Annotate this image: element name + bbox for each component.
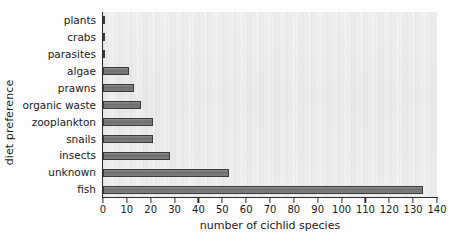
bar-row: [103, 147, 437, 164]
y-tick-label-algae: algae: [26, 63, 100, 80]
x-tick-label-110: 110: [356, 203, 375, 217]
bar-snails: [103, 135, 153, 143]
x-tick-label-0: 0: [100, 203, 106, 217]
y-tick-label-snails: snails: [26, 130, 100, 147]
y-axis-title: diet preference: [0, 0, 18, 245]
x-tick-label-10: 10: [120, 203, 133, 217]
y-tick-label-plants: plants: [26, 12, 100, 29]
bar-row: [103, 97, 437, 114]
x-tick-label-50: 50: [216, 203, 229, 217]
x-tick-label-140: 140: [427, 203, 446, 217]
x-tick-label-70: 70: [264, 203, 277, 217]
x-tick-label-130: 130: [404, 203, 423, 217]
y-tick-label-unknown: unknown: [26, 164, 100, 181]
x-tick-label-100: 100: [332, 203, 351, 217]
bar-fish: [103, 186, 423, 194]
bar-row: [103, 181, 437, 198]
bar-row: [103, 63, 437, 80]
bar-prawns: [103, 84, 134, 92]
y-tick-label-parasites: parasites: [26, 46, 100, 63]
plot-area: [103, 12, 437, 198]
bar-insects: [103, 152, 170, 160]
bar-row: [103, 164, 437, 181]
bar-row: [103, 113, 437, 130]
y-axis-line: [102, 12, 103, 198]
y-axis-tick-labels: plants crabs parasites algae prawns orga…: [26, 12, 100, 198]
y-tick-label-crabs: crabs: [26, 29, 100, 46]
bar-unknown: [103, 169, 229, 177]
x-tick-label-90: 90: [311, 203, 324, 217]
bar-series: [103, 12, 437, 198]
x-tick-label-40: 40: [192, 203, 205, 217]
bar-row: [103, 29, 437, 46]
x-tick-label-30: 30: [168, 203, 181, 217]
bar-row: [103, 46, 437, 63]
bar-row: [103, 80, 437, 97]
x-tick-label-20: 20: [144, 203, 157, 217]
y-tick-label-fish: fish: [26, 181, 100, 198]
bar-algae: [103, 67, 129, 75]
x-axis-tick-labels: 0102030405060708090100110120130140: [103, 203, 437, 217]
bar-organic-waste: [103, 101, 141, 109]
bar-zooplankton: [103, 118, 153, 126]
bar-row: [103, 130, 437, 147]
x-tick-label-120: 120: [380, 203, 399, 217]
y-tick-label-insects: insects: [26, 147, 100, 164]
x-tick-label-80: 80: [287, 203, 300, 217]
bar-row: [103, 12, 437, 29]
x-axis-title: number of cichlid species: [103, 219, 437, 232]
y-tick-label-organic-waste: organic waste: [26, 97, 100, 114]
y-tick-label-zooplankton: zooplankton: [26, 113, 100, 130]
bar-chart-figure: diet preference plants crabs parasites a…: [0, 0, 461, 245]
y-tick-label-prawns: prawns: [26, 80, 100, 97]
x-tick-label-60: 60: [240, 203, 253, 217]
